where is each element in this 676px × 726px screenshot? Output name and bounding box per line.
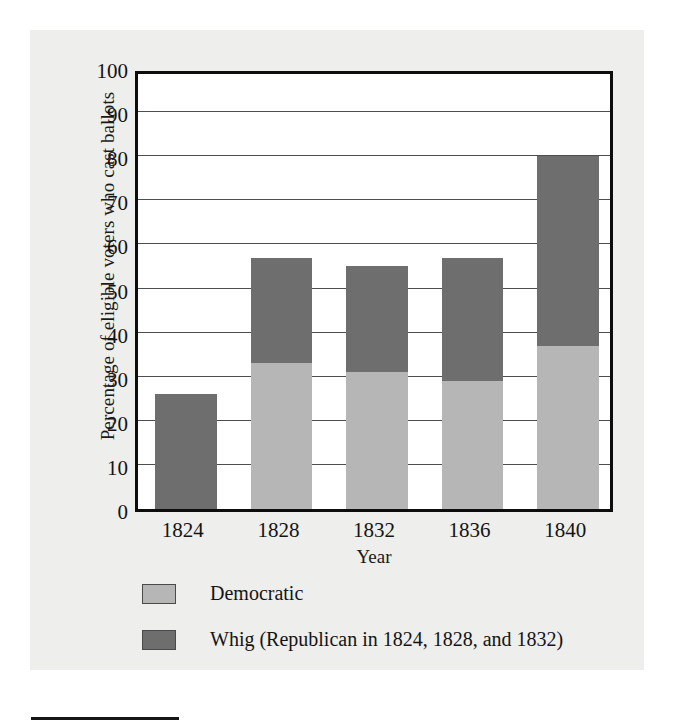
bar-segment-1828-democratic[interactable]	[251, 363, 313, 509]
bar-1840[interactable]	[537, 156, 599, 509]
legend-item-whig[interactable]: Whig (Republican in 1824, 1828, and 1832…	[142, 628, 632, 651]
y-tick-label: 100	[68, 59, 128, 84]
x-tick-label-1828: 1828	[231, 518, 327, 543]
bar-segment-1828-whig[interactable]	[251, 258, 313, 364]
bar-1836[interactable]	[442, 258, 504, 509]
x-axis-tick-labels: 18241828183218361840	[135, 518, 613, 548]
y-tick-label: 20	[68, 411, 128, 436]
y-tick-label: 90	[68, 103, 128, 128]
chart-legend: DemocraticWhig (Republican in 1824, 1828…	[142, 582, 632, 674]
y-tick-label: 80	[68, 147, 128, 172]
bar-segment-1832-democratic[interactable]	[346, 372, 408, 509]
bar-1832[interactable]	[346, 266, 408, 509]
legend-label: Whig (Republican in 1824, 1828, and 1832…	[210, 628, 563, 651]
x-tick-label-1840: 1840	[517, 518, 613, 543]
legend-item-democratic[interactable]: Democratic	[142, 582, 632, 605]
legend-swatch-icon	[142, 584, 176, 604]
legend-swatch-icon	[142, 630, 176, 650]
y-tick-label: 40	[68, 323, 128, 348]
bar-segment-1840-whig[interactable]	[537, 156, 599, 346]
plot-area	[135, 71, 613, 512]
gridline	[138, 111, 610, 112]
bar-segment-1836-whig[interactable]	[442, 258, 504, 381]
x-tick-label-1824: 1824	[135, 518, 231, 543]
bar-segment-1832-whig[interactable]	[346, 266, 408, 372]
y-tick-label: 0	[68, 500, 128, 525]
bar-1828[interactable]	[251, 258, 313, 509]
y-axis-tick-labels: 0102030405060708090100	[60, 71, 128, 512]
y-tick-label: 50	[68, 279, 128, 304]
y-tick-label: 10	[68, 455, 128, 480]
y-tick-label: 70	[68, 191, 128, 216]
y-tick-label: 30	[68, 367, 128, 392]
figure-panel: Percentage of eligible voters who cast b…	[30, 30, 644, 670]
bar-segment-1824-whig[interactable]	[155, 394, 217, 509]
bar-1824[interactable]	[155, 394, 217, 509]
x-tick-label-1832: 1832	[326, 518, 422, 543]
y-tick-label: 60	[68, 235, 128, 260]
bar-segment-1840-democratic[interactable]	[537, 346, 599, 509]
footer-rule	[31, 717, 179, 720]
x-tick-label-1836: 1836	[422, 518, 518, 543]
legend-label: Democratic	[210, 582, 303, 605]
bar-segment-1836-democratic[interactable]	[442, 381, 504, 509]
x-axis-title: Year	[135, 546, 613, 568]
